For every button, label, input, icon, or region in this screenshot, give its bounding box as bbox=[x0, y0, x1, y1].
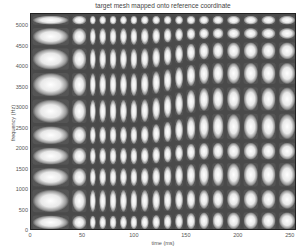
y-tick-label: 1500 bbox=[16, 166, 28, 172]
chart-title: target mesh mapped onto reference coordi… bbox=[30, 2, 296, 9]
x-tick-label: 50 bbox=[79, 232, 85, 238]
x-tick-label: 0 bbox=[28, 232, 31, 238]
x-tick-label: 150 bbox=[181, 232, 190, 238]
y-tick-label: 500 bbox=[19, 207, 28, 213]
mesh-image bbox=[31, 14, 296, 230]
y-tick-label: 4000 bbox=[16, 63, 28, 69]
y-tick-label: 2000 bbox=[16, 145, 28, 151]
x-tick-label: 100 bbox=[129, 232, 138, 238]
y-tick-label: 5000 bbox=[16, 22, 28, 28]
x-tick-label: 200 bbox=[233, 232, 242, 238]
y-tick-label: 3000 bbox=[16, 104, 28, 110]
y-tick-label: 1000 bbox=[16, 186, 28, 192]
y-tick-label: 4500 bbox=[16, 43, 28, 49]
y-axis-label: frequency (Hz) bbox=[10, 98, 16, 148]
y-tick-label: 2500 bbox=[16, 125, 28, 131]
plot-area bbox=[30, 13, 296, 230]
y-tick-label: 3500 bbox=[16, 84, 28, 90]
x-axis-label: time (ms) bbox=[30, 240, 296, 246]
x-tick-label: 250 bbox=[285, 232, 294, 238]
